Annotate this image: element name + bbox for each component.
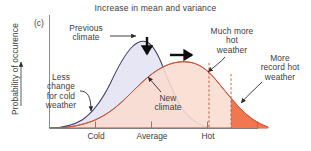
panel-letter: (c) — [34, 18, 44, 28]
x-tick-label-average: Average — [122, 131, 182, 141]
record-hot-leader — [241, 82, 262, 103]
annotation-new-climate: New climate — [148, 94, 188, 113]
figure-panel-c: Increase in mean and variance (c) Probab… — [0, 0, 311, 151]
annotation-less-change-cold: Less change for cold weather — [38, 73, 84, 111]
hot-region-leader — [208, 57, 225, 72]
page-title: Increase in mean and variance — [0, 3, 311, 13]
annotation-much-more-hot: Much more hot weather — [200, 27, 264, 55]
x-tick-label-hot: Hot — [178, 131, 238, 141]
y-axis-label: Probability of occurence — [10, 7, 20, 131]
annotation-previous-climate: Previous climate — [62, 24, 110, 43]
annotation-more-record-hot: More record hot weather — [251, 54, 309, 82]
x-tick-label-cold: Cold — [66, 131, 126, 141]
